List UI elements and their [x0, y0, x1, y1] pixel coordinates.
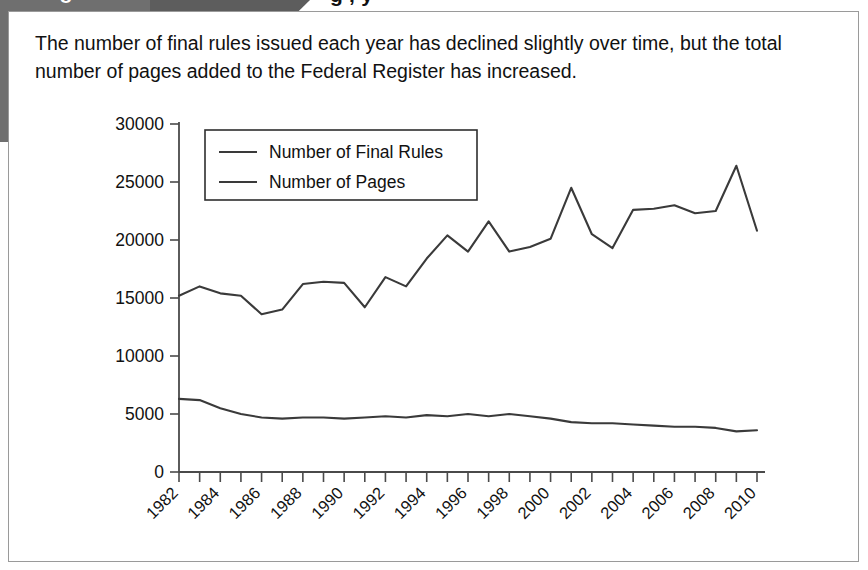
x-tick-label: 1998 — [473, 483, 512, 522]
x-axis: 1982198419861988199019921994199619982000… — [142, 472, 765, 522]
x-tick-label: 2002 — [555, 483, 594, 522]
data-series-group — [179, 166, 757, 432]
x-tick-label: 2006 — [638, 483, 677, 522]
y-axis: 050001000015000200002500030000 — [115, 114, 179, 482]
content-card: The number of final rules issued each ye… — [8, 11, 859, 562]
y-tick-label: 15000 — [115, 288, 164, 308]
y-tick-label: 30000 — [115, 114, 164, 134]
x-tick-label: 1988 — [266, 483, 305, 522]
legend-label: Number of Pages — [269, 172, 405, 192]
chart-legend: Number of Final RulesNumber of Pages — [205, 130, 477, 200]
x-tick-label: 1986 — [225, 483, 264, 522]
y-tick-label: 20000 — [115, 230, 164, 250]
line-chart: 050001000015000200002500030000 198219841… — [9, 12, 860, 563]
x-tick-label: 1990 — [308, 483, 347, 522]
x-tick-label: 2000 — [514, 483, 553, 522]
section-header-number: 8 — [60, 0, 72, 8]
y-tick-label: 0 — [154, 462, 164, 482]
x-tick-label: 1982 — [142, 483, 181, 522]
y-tick-label: 5000 — [125, 404, 164, 424]
legend-label: Number of Final Rules — [269, 142, 443, 162]
y-tick-label: 25000 — [115, 172, 164, 192]
y-tick-label: 10000 — [115, 346, 164, 366]
x-tick-label: 1992 — [349, 483, 388, 522]
series-line-number-of-final-rules — [179, 399, 757, 431]
x-tick-label: 2010 — [720, 483, 759, 522]
x-tick-label: 2008 — [679, 483, 718, 522]
x-tick-label: 1984 — [184, 483, 223, 522]
section-header-title-fragment: g , y — [330, 0, 373, 7]
x-tick-label: 2004 — [597, 483, 636, 522]
x-tick-label: 1994 — [390, 483, 429, 522]
x-tick-label: 1996 — [431, 483, 470, 522]
